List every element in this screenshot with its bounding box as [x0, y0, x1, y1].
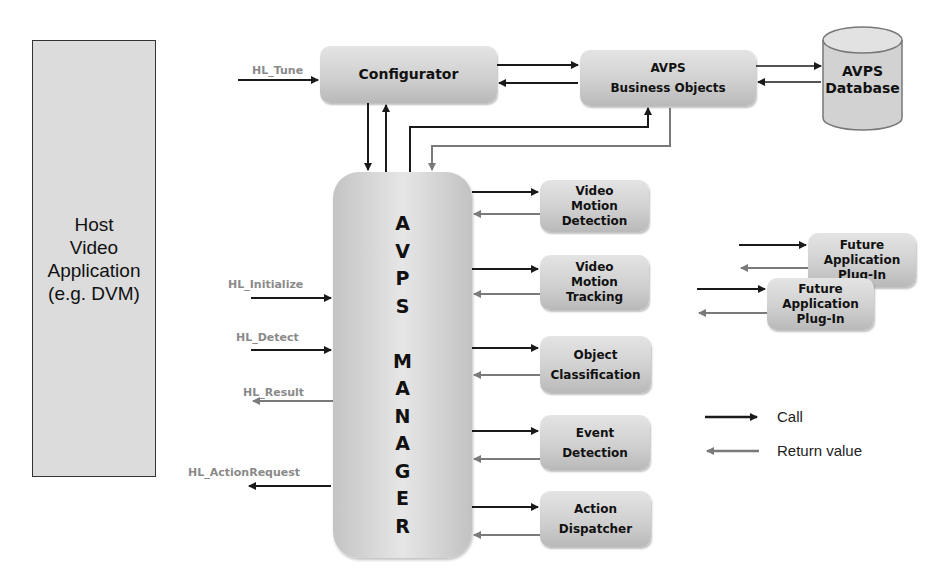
plugin-object-classification: Object Classification [540, 336, 651, 393]
hl-detect-label: HL_Detect [236, 331, 299, 344]
plugin-label: Object Classification [550, 345, 640, 385]
future-plugin-front: Future Application Plug-In [767, 278, 874, 330]
host-video-application: Host Video Application (e.g. DVM) [32, 40, 156, 477]
plugin-event-detection: Event Detection [540, 415, 650, 470]
future-plugin-label: Future Application Plug-In [824, 238, 901, 283]
plugin-video-motion-detection: Video Motion Detection [540, 180, 649, 232]
hl-tune-label: HL_Tune [252, 64, 303, 77]
business-objects-box: AVPS Business Objects [580, 50, 756, 106]
avps-manager-box: A V P S M A N A G E R [333, 172, 472, 558]
manager-label: A V P S M A N A G E R [333, 210, 472, 540]
business-objects-label: AVPS Business Objects [610, 58, 725, 98]
plugin-action-dispatcher: Action Dispatcher [540, 491, 651, 547]
plugin-label: Event Detection [562, 423, 628, 463]
legend-call-label: Call [777, 408, 803, 425]
plugin-label: Action Dispatcher [559, 499, 632, 539]
configurator-box: Configurator [320, 46, 497, 103]
hl-initialize-label: HL_Initialize [228, 278, 303, 291]
database-label: AVPS Database [823, 63, 902, 97]
plugin-label: Video Motion Detection [562, 184, 628, 229]
host-label: Host Video Application (e.g. DVM) [48, 213, 141, 305]
hl-result-label: HL_Result [243, 386, 304, 399]
plugin-label: Video Motion Tracking [566, 260, 623, 305]
configurator-label: Configurator [359, 67, 459, 82]
hl-action-request-label: HL_ActionRequest [188, 466, 300, 479]
plugin-video-motion-tracking: Video Motion Tracking [540, 255, 649, 310]
legend-return-label: Return value [777, 442, 862, 459]
future-plugin-label: Future Application Plug-In [782, 282, 859, 327]
